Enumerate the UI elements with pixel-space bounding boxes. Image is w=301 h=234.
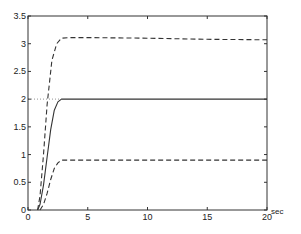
y-axis-ticks: 00.511.522.533.5 [13, 11, 267, 215]
series-line-dashed-0 [38, 38, 267, 210]
series-line-dashed-2 [40, 160, 267, 210]
y-tick-label: 2.5 [13, 66, 26, 76]
x-tick-label: 10 [142, 212, 152, 222]
x-axis-unit-label: sec [271, 207, 283, 216]
y-tick-label: 1 [21, 150, 26, 160]
y-tick-label: 2 [21, 94, 26, 104]
y-tick-label: 1.5 [13, 122, 26, 132]
plot-series [28, 38, 267, 210]
y-tick-label: 3 [21, 39, 26, 49]
x-axis-ticks: 05101520 [25, 16, 272, 222]
series-line-solid-1 [38, 99, 267, 210]
y-tick-label: 0 [21, 205, 26, 215]
y-tick-label: 3.5 [13, 11, 26, 21]
x-tick-label: 0 [25, 212, 30, 222]
plot-frame [28, 16, 267, 210]
x-tick-label: 15 [202, 212, 212, 222]
x-tick-label: 5 [85, 212, 90, 222]
y-tick-label: 0.5 [13, 177, 26, 187]
step-response-chart: 05101520 00.511.522.533.5 sec [0, 0, 301, 234]
